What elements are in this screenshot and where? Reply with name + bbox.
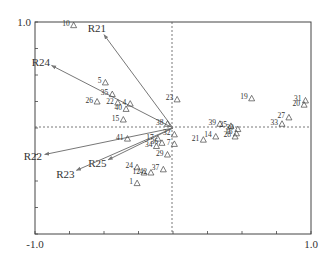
point-19: 19 (240, 92, 255, 101)
point-label: 5 (98, 76, 102, 85)
point-1: 1 (129, 177, 140, 186)
point-label: 4 (122, 98, 126, 107)
triangle-marker-icon (124, 136, 130, 142)
y-max-label: 1.0 (17, 16, 31, 28)
point-label: 33 (271, 118, 279, 127)
triangle-marker-icon (302, 97, 308, 103)
triangle-marker-icon (301, 102, 307, 108)
point-label: 40 (115, 103, 123, 112)
vector-r21: R21 (88, 22, 173, 128)
point-label: 32 (163, 128, 171, 137)
triangle-marker-icon (123, 106, 129, 112)
point-label: 23 (166, 93, 174, 102)
point-label: 27 (277, 111, 285, 120)
triangle-marker-icon (71, 22, 77, 28)
point-23: 23 (166, 93, 181, 102)
point-26: 26 (86, 96, 101, 105)
point-15: 15 (112, 114, 127, 123)
point-10: 10 (62, 19, 77, 28)
point-label: 42 (139, 167, 147, 176)
point-4: 4 (122, 98, 133, 107)
point-label: 39 (208, 118, 216, 127)
point-32: 32 (163, 128, 178, 137)
point-label: 34 (145, 140, 153, 149)
point-label: 21 (192, 134, 200, 143)
point-label: 38 (156, 118, 164, 127)
point-37: 37 (152, 163, 167, 172)
triangle-marker-icon (249, 95, 255, 101)
triangle-marker-icon (120, 117, 126, 123)
vector-label: R24 (32, 56, 51, 68)
point-label: 19 (240, 92, 248, 101)
point-label: 15 (112, 114, 120, 123)
point-label: 26 (86, 96, 94, 105)
point-29: 29 (156, 149, 171, 158)
triangle-marker-icon (159, 140, 165, 146)
triangle-marker-icon (286, 114, 292, 120)
point-label: 22 (106, 97, 114, 106)
point-27: 27 (277, 111, 292, 120)
triangle-marker-icon (94, 99, 100, 105)
triangle-marker-icon (134, 180, 140, 186)
point-label: 41 (116, 133, 124, 142)
point-label: 37 (152, 163, 160, 172)
point-label: 28 (224, 130, 232, 139)
point-20: 20 (293, 99, 308, 108)
triangle-marker-icon (232, 133, 238, 139)
biplot-chart: R21R24R22R25R23 105352622440152338174136… (0, 0, 329, 263)
point-label: 7 (167, 138, 171, 147)
triangle-marker-icon (102, 79, 108, 85)
triangle-marker-icon (279, 121, 285, 127)
point-36: 36 (150, 137, 165, 146)
point-14: 14 (204, 130, 219, 139)
point-41: 41 (116, 133, 131, 142)
triangle-marker-icon (174, 96, 180, 102)
point-label: 14 (204, 130, 212, 139)
point-5: 5 (98, 76, 109, 85)
point-label: 1 (129, 177, 133, 186)
vector-label: R22 (24, 150, 42, 162)
x-max-label: 1.0 (304, 238, 318, 250)
triangle-marker-icon (160, 166, 166, 172)
vector-label: R21 (88, 22, 106, 34)
triangle-marker-icon (213, 133, 219, 139)
x-min-label: -1.0 (26, 238, 44, 250)
vector-label: R23 (56, 168, 75, 180)
vector-label: R25 (88, 157, 107, 169)
point-label: 29 (156, 149, 164, 158)
triangle-marker-icon (164, 152, 170, 158)
point-label: 10 (62, 19, 70, 28)
point-label: 20 (293, 99, 301, 108)
